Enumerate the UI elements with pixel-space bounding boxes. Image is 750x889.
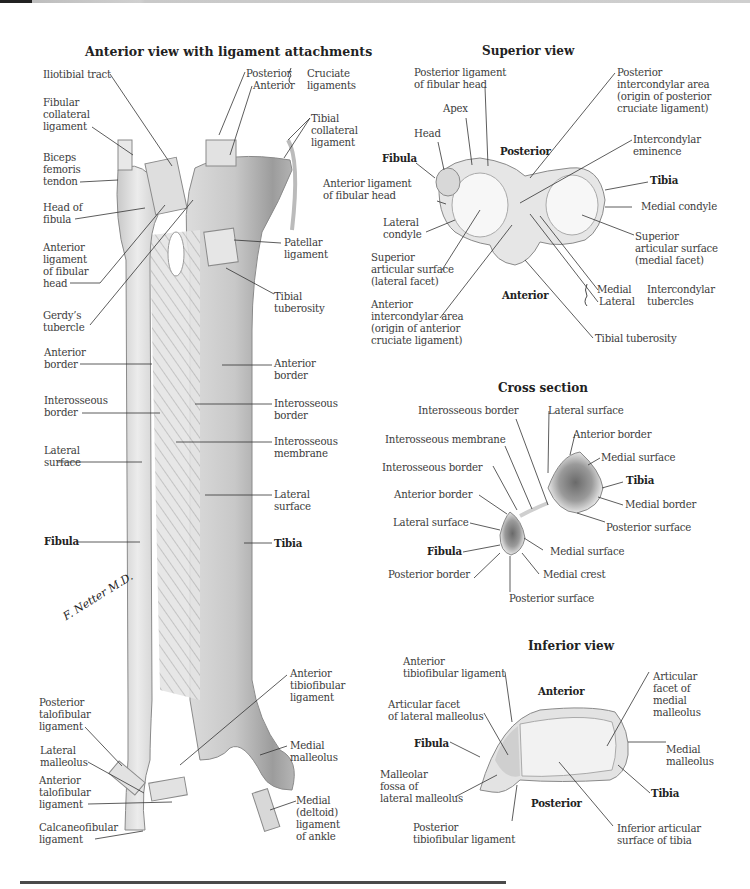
- label-cs-lateral-surface-tibia: Lateral surface: [548, 405, 624, 417]
- label-medial-deltoid-ligament: Medial (deltoid) ligament of ankle: [296, 795, 340, 843]
- label-superior-tibia: Tibia: [650, 175, 678, 187]
- label-cs-tibia: Tibia: [626, 475, 654, 487]
- label-inf-posterior-tibiofibular-ligament: Posterior tibiofibular ligament: [413, 822, 515, 846]
- label-superior-tibial-tuberosity: Tibial tuberosity: [595, 333, 677, 345]
- label-head: Head: [414, 128, 441, 140]
- label-posterior-talofibular-ligament: Posterior talofibular ligament: [39, 697, 91, 733]
- inferior-view-bones: [480, 708, 628, 793]
- label-tibia-interosseous-border: Interosseous border: [274, 398, 338, 422]
- label-cs-posterior-border: Posterior border: [388, 569, 470, 581]
- label-superior-anterior: Anterior: [502, 290, 548, 302]
- label-tibia-lateral-surface: Lateral surface: [274, 489, 311, 513]
- label-superior-posterior: Posterior: [500, 146, 551, 158]
- label-cs-medial-surface-fibula: Medial surface: [550, 546, 624, 558]
- label-fibula: Fibula: [44, 536, 79, 548]
- label-cs-posterior-surface-fibula: Posterior surface: [509, 593, 594, 605]
- label-inf-tibia: Tibia: [651, 788, 679, 800]
- label-cs-posterior-surface-tibia: Posterior surface: [606, 522, 691, 534]
- bottom-rule: [20, 881, 506, 884]
- label-fibula-anterior-border: Anterior border: [44, 347, 86, 371]
- label-tibia: Tibia: [274, 538, 302, 550]
- label-inf-articular-facet-lateral-malleolus: Articular facet of lateral malleolus: [388, 699, 484, 723]
- label-tubercle-medial: Medial: [597, 284, 631, 296]
- label-cruciate-ligaments: Cruciate ligaments: [307, 68, 356, 92]
- cross-section-bones: [500, 452, 603, 555]
- label-cs-medial-crest: Medial crest: [543, 569, 605, 581]
- label-anterior-intercondylar-area: Anterior intercondylar area (origin of a…: [371, 299, 463, 347]
- label-interosseous-membrane: Interosseous membrane: [274, 436, 338, 460]
- label-intercondylar-eminence: Intercondylar eminence: [633, 134, 701, 158]
- label-tibial-collateral-ligament: Tibial collateral ligament: [311, 113, 358, 149]
- label-biceps-femoris-tendon: Biceps femoris tendon: [43, 152, 81, 188]
- label-intercondylar-tubercles: Intercondylar tubercles: [647, 284, 715, 308]
- label-tubercle-lateral: Lateral: [599, 296, 635, 308]
- label-cs-medial-border: Medial border: [625, 499, 696, 511]
- inferior-view-title: Inferior view: [528, 639, 614, 653]
- label-fibula-interosseous-border: Interosseous border: [44, 395, 108, 419]
- label-posterior-ligament-fibular-head: Posterior ligament of fibular head: [414, 67, 506, 91]
- label-cs-anterior-border-fibula: Anterior border: [394, 489, 472, 501]
- label-cruciate-posterior: Posterior: [246, 68, 291, 80]
- label-posterior-intercondylar-area: Posterior intercondylar area (origin of …: [617, 67, 711, 115]
- label-cs-interosseous-membrane: Interosseous membrane: [385, 434, 506, 446]
- label-lateral-condyle: Lateral condyle: [383, 217, 422, 241]
- label-medial-condyle: Medial condyle: [641, 201, 717, 213]
- label-cs-interosseous-border-fibula: Interosseous border: [382, 462, 483, 474]
- label-tibial-tuberosity: Tibial tuberosity: [274, 291, 325, 315]
- label-cs-interosseous-border-tibia: Interosseous border: [418, 405, 519, 417]
- label-patellar-ligament: Patellar ligament: [284, 237, 328, 261]
- label-anterior-tibiofibular-ligament: Anterior tibiofibular ligament: [290, 668, 345, 704]
- anterior-view-bones: [109, 140, 295, 831]
- label-anterior-talofibular-ligament: Anterior talofibular ligament: [39, 775, 91, 811]
- label-superior-fibula: Fibula: [382, 153, 417, 165]
- label-superior-articular-medial: Superior articular surface (medial facet…: [635, 231, 718, 267]
- label-inf-anterior-tibiofibular-ligament: Anterior tibiofibular ligament: [403, 656, 505, 680]
- label-superior-articular-lateral: Superior articular surface (lateral face…: [371, 252, 454, 288]
- label-fibula-lateral-surface: Lateral surface: [44, 445, 81, 469]
- label-gerdys-tubercle: Gerdy’s tubercle: [43, 310, 84, 334]
- label-cs-lateral-surface-fibula: Lateral surface: [393, 517, 469, 529]
- label-calcaneofibular-ligament: Calcaneofibular ligament: [39, 822, 118, 846]
- label-inf-anterior: Anterior: [538, 686, 584, 698]
- label-tibia-anterior-border: Anterior border: [274, 358, 316, 382]
- anterior-view-title: Anterior view with ligament attachments: [85, 44, 372, 59]
- label-inf-malleolar-fossa: Malleolar fossa of lateral malleolus: [380, 769, 463, 805]
- label-inf-posterior: Posterior: [531, 798, 582, 810]
- cross-section-title: Cross section: [498, 381, 588, 395]
- superior-view-title: Superior view: [482, 44, 574, 58]
- superior-view-bones: [436, 158, 605, 265]
- label-inf-articular-facet-medial-malleolus: Articular facet of medial malleolus: [653, 671, 701, 719]
- label-cs-medial-surface-tibia: Medial surface: [601, 452, 675, 464]
- label-anterior-ligament-fibular-head: Anterior ligament of fibular head: [43, 242, 88, 290]
- label-fibular-collateral-ligament: Fibular collateral ligament: [43, 97, 90, 133]
- label-iliotibial-tract: Iliotibial tract: [43, 69, 111, 81]
- label-inf-inferior-articular-surface: Inferior articular surface of tibia: [617, 823, 701, 847]
- label-cruciate-anterior: Anterior: [253, 80, 295, 92]
- label-inf-fibula: Fibula: [414, 738, 449, 750]
- label-anterior-ligament-fibular-head: Anterior ligament of fibular head: [323, 178, 411, 202]
- label-cs-anterior-border-tibia: Anterior border: [573, 429, 651, 441]
- label-head-of-fibula: Head of fibula: [43, 202, 82, 226]
- label-cs-fibula: Fibula: [427, 546, 462, 558]
- label-medial-malleolus: Medial malleolus: [290, 740, 338, 764]
- label-apex: Apex: [443, 103, 468, 115]
- label-inf-medial-malleolus: Medial malleolus: [666, 744, 714, 768]
- label-lateral-malleolus: Lateral malleolus: [40, 745, 88, 769]
